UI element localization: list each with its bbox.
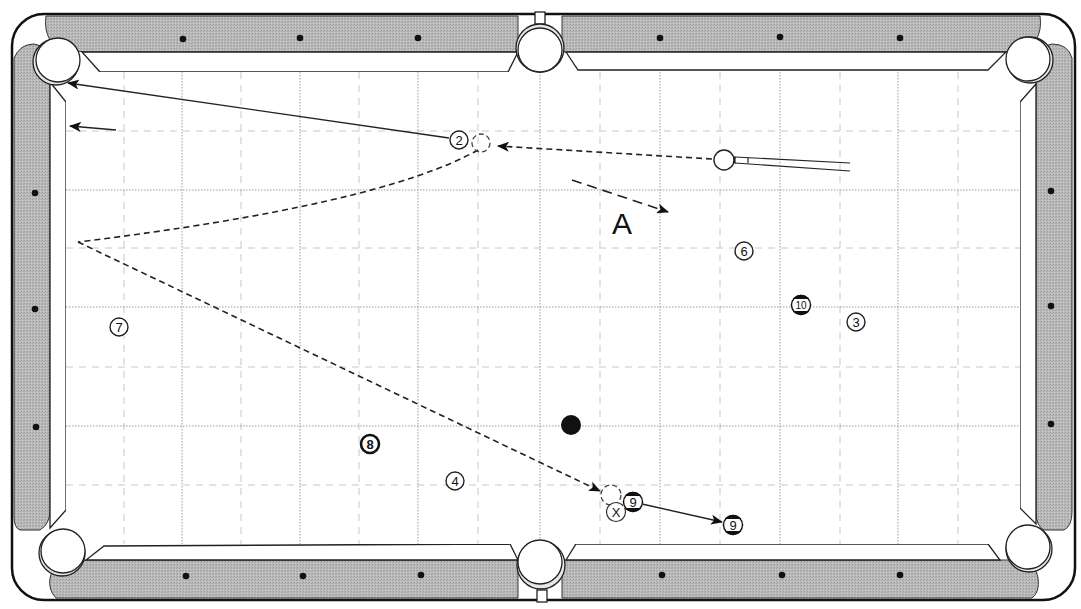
diamond-left-3 [33, 424, 40, 431]
pocket-bottom-left [39, 529, 85, 576]
diamond-bottom-3 [418, 572, 425, 579]
ball-4: 4 [446, 472, 464, 490]
cue-ball [714, 150, 734, 170]
rail-right [1036, 44, 1072, 530]
cushion-top-left [82, 52, 518, 72]
ball-9-final: 9 [723, 516, 743, 535]
ball-7: 7 [110, 318, 128, 336]
x-marker-label: X [612, 505, 621, 520]
ball-3-label: 3 [852, 315, 859, 330]
ball-7-label: 7 [115, 320, 122, 335]
diamond-bottom-6 [897, 572, 904, 579]
diamond-right-2 [1048, 303, 1055, 310]
diamond-top-1 [180, 36, 187, 43]
diamond-bottom-2 [300, 573, 307, 580]
shot-label-a: A [612, 207, 632, 240]
x-marker: X [607, 503, 626, 522]
cushion-bottom-left [86, 544, 518, 560]
diamond-left-1 [32, 190, 39, 197]
ball-8-label: 8 [366, 437, 373, 452]
ball-6: 6 [735, 242, 753, 260]
diamond-top-4 [657, 35, 664, 42]
ball-6-label: 6 [740, 244, 747, 259]
cushion-right [1020, 84, 1036, 524]
cushion-left [50, 82, 66, 528]
ball-3: 3 [847, 313, 865, 331]
ball-9: 9 [623, 493, 643, 512]
rail-bottom-left [50, 560, 518, 598]
pocket-top-right [1006, 37, 1053, 83]
diamond-bottom-1 [183, 573, 190, 580]
diamond-bottom-5 [779, 572, 786, 579]
ball-10: 10 [791, 296, 811, 315]
diamond-top-5 [777, 34, 784, 41]
ball-8: 8 [361, 435, 379, 453]
diamond-top-2 [297, 35, 304, 42]
cushion-bottom-right [566, 544, 1000, 560]
ball-10-label: 10 [795, 300, 807, 311]
ball-2: 2 [450, 131, 468, 149]
diamond-top-6 [897, 35, 904, 42]
ball-9-label: 9 [629, 495, 636, 510]
ball-4-label: 4 [451, 474, 458, 489]
playing-surface [66, 72, 1020, 544]
rail-bottom-right [562, 560, 1038, 598]
ball-2-label: 2 [455, 133, 462, 148]
rail-left [14, 44, 50, 530]
diamond-right-3 [1048, 421, 1055, 428]
rail-top-left [46, 16, 519, 52]
pocket-bottom-right [1006, 525, 1052, 572]
diamond-left-2 [32, 306, 39, 313]
diamond-right-1 [1048, 188, 1055, 195]
diamond-bottom-4 [659, 572, 666, 579]
ball-9-final-label: 9 [729, 518, 736, 533]
diamond-top-3 [415, 35, 422, 42]
black-ball [561, 415, 581, 435]
cushion-top-right [566, 52, 1006, 70]
pocket-top-left [33, 38, 80, 85]
pool-table-diagram: 2 6 10 3 7 8 4 [0, 0, 1081, 609]
rail-top-right [562, 16, 1041, 52]
